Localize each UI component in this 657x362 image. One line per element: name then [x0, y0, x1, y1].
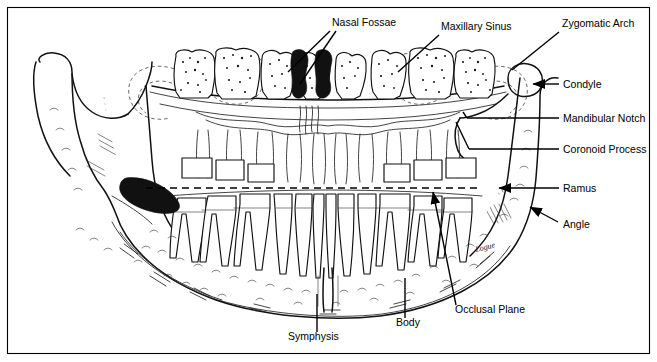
- label-text: Ramus: [563, 182, 596, 194]
- label-text: Zygomatic Arch: [562, 17, 635, 29]
- label-text: Maxillary Sinus: [441, 20, 512, 32]
- label-text: Coronoid Process: [563, 143, 646, 155]
- label-text: Angle: [563, 218, 590, 230]
- label-text: Nasal Fossae: [332, 16, 396, 28]
- nasal-fossa-right: [315, 49, 332, 98]
- label-text: Occlusal Plane: [455, 303, 525, 315]
- label-text: Mandibular Notch: [563, 112, 645, 124]
- label-text: Body: [396, 316, 421, 328]
- nasal-septum: [291, 49, 308, 98]
- anatomy-figure: Logue Nasal Fossae Maxillary Sinus Zygom…: [0, 0, 657, 362]
- label-text: Condyle: [563, 78, 602, 90]
- label-text: Symphysis: [288, 330, 339, 342]
